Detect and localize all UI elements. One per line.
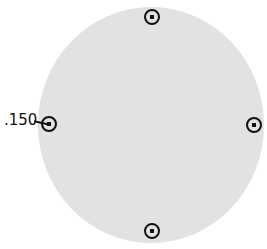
resize-handle-bottom[interactable] <box>144 223 160 239</box>
dimension-label: .150 <box>4 111 37 129</box>
resize-handle-right[interactable] <box>246 117 262 133</box>
circle-shape[interactable] <box>38 7 264 243</box>
resize-handle-top[interactable] <box>144 9 160 25</box>
